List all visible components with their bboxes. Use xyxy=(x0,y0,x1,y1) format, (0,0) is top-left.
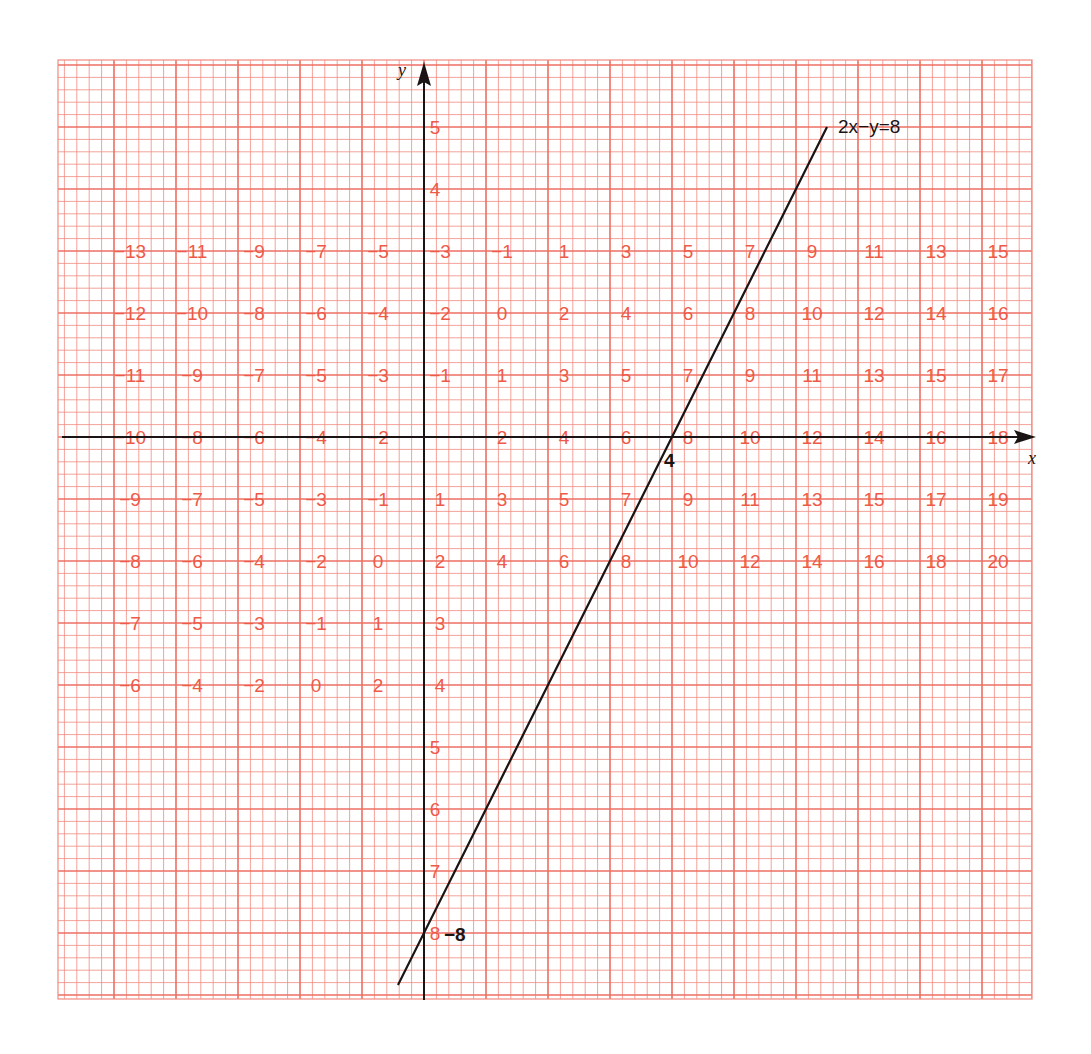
value-label: −6 xyxy=(119,675,141,696)
value-label: −9 xyxy=(119,489,141,510)
value-label: −11 xyxy=(177,241,208,262)
value-label: 19 xyxy=(987,489,1008,510)
value-label: −8 xyxy=(119,551,141,572)
value-label: 12 xyxy=(863,303,884,324)
value-label: −2 xyxy=(243,675,265,696)
value-label: 20 xyxy=(987,551,1008,572)
value-label: 12 xyxy=(739,551,760,572)
value-label: −4 xyxy=(367,303,389,324)
value-label: 6 xyxy=(683,303,694,324)
value-label: 15 xyxy=(987,241,1008,262)
y-axis-value-label: 7 xyxy=(430,861,441,882)
value-label: 17 xyxy=(925,489,946,510)
x-axis-label: x xyxy=(1027,448,1036,468)
value-label: 1 xyxy=(373,613,384,634)
value-label: −9 xyxy=(243,241,265,262)
value-label: 11 xyxy=(740,489,760,510)
value-label: 0 xyxy=(373,551,384,572)
y-axis-value-label: 8 xyxy=(430,923,441,944)
value-label: −1 xyxy=(429,365,451,386)
value-label: 1 xyxy=(497,365,508,386)
value-label: 0 xyxy=(497,303,508,324)
value-label: 17 xyxy=(987,365,1008,386)
value-label: −5 xyxy=(367,241,389,262)
value-label: 2 xyxy=(559,303,570,324)
value-label: 8 xyxy=(621,551,632,572)
value-label: 15 xyxy=(925,365,946,386)
value-label: 11 xyxy=(802,365,822,386)
value-label: 3 xyxy=(559,365,570,386)
value-label: 6 xyxy=(559,551,570,572)
value-label: −7 xyxy=(305,241,327,262)
value-label: 3 xyxy=(435,613,446,634)
value-label: −7 xyxy=(181,489,203,510)
value-label: −11 xyxy=(115,365,146,386)
intercept-label: 4 xyxy=(664,450,675,471)
value-label: −7 xyxy=(243,365,265,386)
minor-grid xyxy=(58,60,1032,999)
y-axis-value-label: 4 xyxy=(430,179,441,200)
major-grid xyxy=(58,60,1032,999)
value-label: −13 xyxy=(114,241,146,262)
value-label: −9 xyxy=(181,365,203,386)
value-label: 4 xyxy=(435,675,446,696)
value-labels: −13−11−9−7−5−3−113579111315−12−10−8−6−4−… xyxy=(114,117,1009,944)
value-label: 16 xyxy=(863,551,884,572)
value-label: 4 xyxy=(497,551,508,572)
equation-label: 2x−y=8 xyxy=(838,116,900,137)
line-2x-minus-y-equals-8 xyxy=(398,127,827,985)
intercept-label: −8 xyxy=(444,924,466,945)
graph-paper-chart: −13−11−9−7−5−3−113579111315−12−10−8−6−4−… xyxy=(0,0,1091,1054)
value-label: 9 xyxy=(807,241,818,262)
value-label: 10 xyxy=(801,303,822,324)
value-label: 8 xyxy=(745,303,756,324)
value-label: −5 xyxy=(305,365,327,386)
value-label: −1 xyxy=(491,241,513,262)
value-label: 5 xyxy=(559,489,570,510)
value-label: 3 xyxy=(621,241,632,262)
value-label: −7 xyxy=(119,613,141,634)
y-axis-value-label: 5 xyxy=(430,117,441,138)
value-label: 3 xyxy=(497,489,508,510)
value-label: −3 xyxy=(305,489,327,510)
value-label: 14 xyxy=(801,551,823,572)
value-label: 10 xyxy=(677,551,698,572)
value-label: 2 xyxy=(373,675,384,696)
value-label: −5 xyxy=(181,613,203,634)
value-label: 7 xyxy=(621,489,632,510)
value-label: −2 xyxy=(429,303,451,324)
value-label: −4 xyxy=(181,675,203,696)
value-label: 4 xyxy=(621,303,632,324)
value-label: 7 xyxy=(683,365,694,386)
value-label: 9 xyxy=(683,489,694,510)
value-label: 18 xyxy=(925,551,946,572)
value-label: 1 xyxy=(559,241,570,262)
value-label: −6 xyxy=(305,303,327,324)
series-layer xyxy=(398,127,827,985)
value-label: 9 xyxy=(745,365,756,386)
y-axis-label: y xyxy=(396,60,406,80)
value-label: −2 xyxy=(305,551,327,572)
value-label: −1 xyxy=(367,489,389,510)
value-label: 1 xyxy=(435,489,446,510)
value-label: −3 xyxy=(243,613,265,634)
value-label: −6 xyxy=(181,551,203,572)
value-label: 5 xyxy=(683,241,694,262)
value-label: 15 xyxy=(863,489,884,510)
value-label: −12 xyxy=(114,303,146,324)
y-axis-value-label: 5 xyxy=(430,737,441,758)
value-label: 16 xyxy=(987,303,1008,324)
grid-border xyxy=(58,60,1032,999)
y-axis-value-label: 6 xyxy=(430,799,441,820)
value-label: −4 xyxy=(243,551,265,572)
value-label: 7 xyxy=(745,241,756,262)
value-label: 13 xyxy=(801,489,822,510)
value-label: 13 xyxy=(925,241,946,262)
value-label: −10 xyxy=(176,303,208,324)
value-label: 13 xyxy=(863,365,884,386)
value-label: 14 xyxy=(925,303,947,324)
value-label: −3 xyxy=(367,365,389,386)
value-label: −3 xyxy=(429,241,451,262)
value-label: 0 xyxy=(311,675,322,696)
value-label: 5 xyxy=(621,365,632,386)
